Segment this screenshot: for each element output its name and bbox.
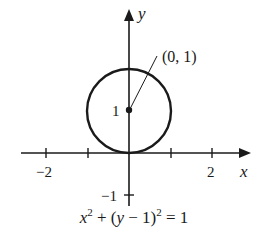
- eq-y: y: [116, 208, 124, 227]
- x-tick-label-2: 2: [207, 164, 215, 180]
- eq-plus-paren: + (: [93, 208, 117, 227]
- x-tick-label-neg2: −2: [36, 164, 52, 180]
- y-axis-arrow-icon: [124, 9, 134, 21]
- annotation-point-label: (0, 1): [162, 48, 197, 66]
- annotation-leader-line: [131, 56, 157, 107]
- equation-caption: x2 + (y − 1)2 = 1: [0, 206, 268, 228]
- center-point: [126, 107, 132, 113]
- eq-equals-one: = 1: [162, 208, 189, 227]
- eq-minus-one: − 1): [124, 208, 156, 227]
- y-axis-label: y: [136, 4, 146, 23]
- x-axis-label: x: [239, 162, 248, 181]
- x-axis-arrow-icon: [239, 148, 251, 158]
- y-tick-label-1: 1: [112, 103, 120, 119]
- y-tick-label-neg1: −1: [101, 188, 117, 204]
